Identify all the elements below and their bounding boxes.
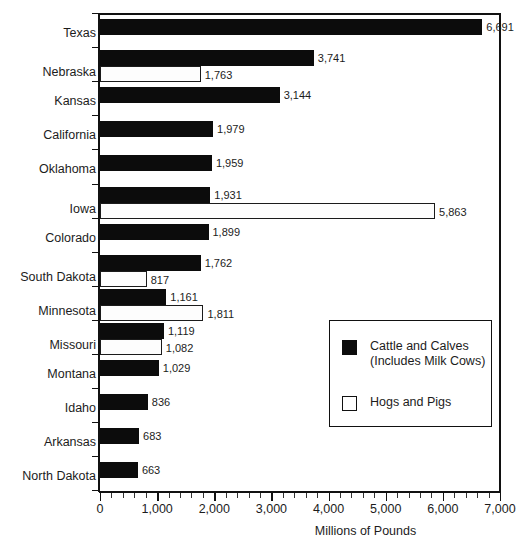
x-axis-major-tick	[100, 493, 101, 501]
x-axis-minor-tick	[283, 493, 284, 498]
bar-value-cattle-missouri: 1,119	[168, 326, 195, 337]
category-label-idaho: Idaho	[65, 402, 96, 415]
x-axis-minor-tick	[111, 493, 112, 498]
legend-entry-hogs: Hogs and Pigs	[342, 395, 451, 411]
bar-hogs-missouri	[100, 339, 162, 355]
x-axis-minor-tick	[374, 493, 375, 498]
x-axis-minor-tick	[191, 493, 192, 498]
x-axis-minor-tick	[454, 493, 455, 498]
bar-cattle-oklahoma	[100, 155, 212, 171]
bar-value-cattle-iowa: 1,931	[214, 190, 242, 201]
x-axis-minor-tick	[134, 493, 135, 498]
open-square-icon	[342, 396, 357, 411]
x-axis-minor-tick	[409, 493, 410, 498]
x-axis-title: Millions of Pounds	[0, 524, 529, 538]
filled-square-icon	[342, 340, 357, 355]
chart-row: Kansas3,144	[0, 81, 529, 115]
chart-row: Colorado1,899	[0, 218, 529, 252]
x-axis-minor-tick	[180, 493, 181, 498]
x-axis-minor-tick	[237, 493, 238, 498]
category-label-montana: Montana	[47, 368, 96, 381]
x-axis-major-tick	[157, 493, 158, 501]
category-label-minnesota: Minnesota	[38, 305, 96, 318]
bar-value-cattle-oklahoma: 1,959	[216, 158, 244, 169]
bar-hogs-nebraska	[100, 66, 201, 82]
x-axis-major-tick	[329, 493, 330, 501]
chart-row: Minnesota1,1611,811	[0, 286, 529, 320]
x-axis-minor-tick	[306, 493, 307, 498]
bar-value-hogs-south-dakota: 817	[151, 275, 169, 286]
y-axis-tick	[92, 218, 99, 219]
x-axis-minor-tick	[477, 493, 478, 498]
category-label-iowa: Iowa	[70, 203, 96, 216]
x-axis-minor-tick	[249, 493, 250, 498]
x-axis-minor-tick	[340, 493, 341, 498]
bar-value-cattle-idaho: 836	[152, 397, 170, 408]
bar-cattle-missouri	[100, 323, 164, 339]
x-axis-major-tick	[386, 493, 387, 501]
bar-hogs-south-dakota	[100, 271, 147, 287]
x-axis-minor-tick	[397, 493, 398, 498]
bar-cattle-montana	[100, 360, 159, 376]
x-axis-major-tick	[214, 493, 215, 501]
x-axis-major-tick	[500, 493, 501, 501]
x-axis-tick-label: 0	[70, 503, 130, 516]
bar-value-cattle-kansas: 3,144	[284, 90, 312, 101]
chart-row: Nebraska3,7411,763	[0, 47, 529, 81]
x-axis-tick-label: 6,000	[413, 503, 473, 516]
x-axis-minor-tick	[260, 493, 261, 498]
legend-label-cattle: Cattle and Calves (Includes Milk Cows)	[370, 339, 485, 368]
x-axis-tick-label: 4,000	[299, 503, 359, 516]
bar-cattle-colorado	[100, 224, 209, 240]
bar-value-cattle-arkansas: 683	[143, 431, 161, 442]
x-axis-minor-tick	[123, 493, 124, 498]
x-axis-major-tick	[443, 493, 444, 501]
category-label-kansas: Kansas	[54, 95, 96, 108]
bar-cattle-minnesota	[100, 289, 166, 305]
bar-cattle-california	[100, 121, 213, 137]
x-axis-minor-tick	[203, 493, 204, 498]
y-axis-tick	[92, 115, 99, 116]
y-axis-tick	[92, 184, 99, 185]
y-axis-tick	[92, 81, 99, 82]
bar-value-cattle-minnesota: 1,161	[170, 292, 198, 303]
x-axis-minor-tick	[420, 493, 421, 498]
x-axis-title-label: Millions of Pounds	[315, 524, 416, 538]
y-axis-tick	[92, 456, 99, 457]
legend-entry-cattle: Cattle and Calves (Includes Milk Cows)	[342, 339, 485, 368]
bar-value-hogs-nebraska: 1,763	[205, 70, 233, 81]
category-label-missouri: Missouri	[49, 339, 96, 352]
chart-legend: Cattle and Calves (Includes Milk Cows) H…	[329, 320, 492, 427]
legend-label-hogs: Hogs and Pigs	[370, 395, 451, 410]
bar-cattle-north-dakota	[100, 462, 138, 478]
category-label-nebraska: Nebraska	[43, 66, 97, 79]
category-label-oklahoma: Oklahoma	[39, 163, 96, 176]
bar-cattle-texas	[100, 19, 482, 35]
y-axis-tick	[92, 490, 99, 491]
x-axis-minor-tick	[294, 493, 295, 498]
bar-cattle-iowa	[100, 187, 210, 203]
x-axis-tick-label: 3,000	[241, 503, 301, 516]
bar-value-hogs-missouri: 1,082	[166, 343, 194, 354]
x-axis-minor-tick	[489, 493, 490, 498]
bar-value-cattle-south-dakota: 1,762	[205, 258, 233, 269]
bar-cattle-arkansas	[100, 428, 139, 444]
y-axis-tick	[92, 320, 99, 321]
bar-hogs-iowa	[100, 203, 435, 219]
chart-row: Iowa1,9315,863	[0, 184, 529, 218]
category-label-colorado: Colorado	[45, 232, 96, 245]
bar-hogs-minnesota	[100, 305, 203, 321]
y-axis-tick	[92, 388, 99, 389]
bar-value-cattle-california: 1,979	[217, 124, 245, 135]
y-axis-tick	[92, 354, 99, 355]
bar-value-cattle-texas: 6,691	[486, 22, 514, 33]
x-axis-minor-tick	[146, 493, 147, 498]
x-axis-minor-tick	[226, 493, 227, 498]
y-axis-tick	[92, 47, 99, 48]
bar-value-cattle-north-dakota: 663	[142, 465, 160, 476]
chart-row: Arkansas683	[0, 422, 529, 456]
bar-value-hogs-iowa: 5,863	[439, 207, 467, 218]
y-axis-tick	[92, 252, 99, 253]
category-label-north-dakota: North Dakota	[22, 470, 96, 483]
chart-row: Oklahoma1,959	[0, 149, 529, 183]
